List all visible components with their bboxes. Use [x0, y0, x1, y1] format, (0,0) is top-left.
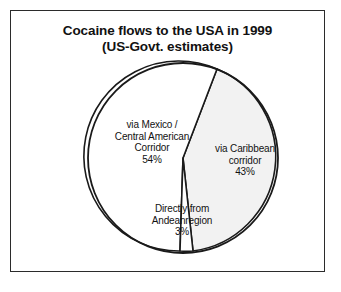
pie-label-caribbean-value: 43%	[199, 166, 291, 178]
pie-label-andean-line-2: Andeanregion	[123, 215, 241, 227]
pie-label-caribbean-line-2: corridor	[199, 155, 291, 167]
pie-label-mexico-value: 54%	[97, 154, 207, 166]
pie-chart: via Mexico / Central American Corridor 5…	[11, 11, 326, 273]
pie-label-andean-value: 3%	[123, 226, 241, 238]
pie-label-mexico-line-1: via Mexico /	[97, 119, 207, 131]
pie-label-caribbean: via Caribbean corridor 43%	[199, 143, 291, 178]
pie-label-mexico-line-2: Central American	[97, 131, 207, 143]
pie-label-andean-line-1: Directly from	[123, 203, 241, 215]
pie-label-andean: Directly from Andeanregion 3%	[123, 203, 241, 238]
chart-frame: Cocaine flows to the USA in 1999 (US-Gov…	[10, 10, 325, 272]
figure-root: Cocaine flows to the USA in 1999 (US-Gov…	[0, 0, 341, 292]
pie-label-mexico-line-3: Corridor	[97, 142, 207, 154]
pie-label-mexico: via Mexico / Central American Corridor 5…	[97, 119, 207, 165]
pie-label-caribbean-line-1: via Caribbean	[199, 143, 291, 155]
